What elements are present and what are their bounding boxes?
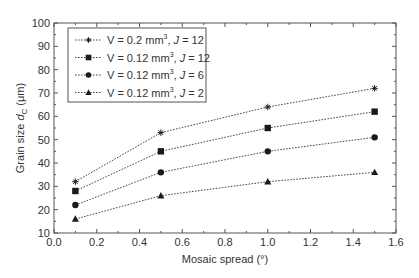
square-marker bbox=[72, 188, 78, 194]
x-tick-label: 0.2 bbox=[89, 236, 104, 248]
y-axis-label: Grain size dC (μm) bbox=[14, 83, 29, 173]
legend-label: V = 0.2 mm3, J = 12 bbox=[107, 33, 204, 46]
circle-marker bbox=[72, 202, 78, 208]
x-tick-label: 0.8 bbox=[217, 236, 232, 248]
x-tick-label: 1.0 bbox=[260, 236, 275, 248]
y-tick-label: 50 bbox=[38, 134, 50, 146]
legend-label: V = 0.12 mm3, J = 2 bbox=[107, 86, 204, 99]
square-marker bbox=[265, 125, 271, 131]
circle-marker bbox=[265, 148, 271, 154]
y-tick-label: 40 bbox=[38, 157, 50, 169]
legend-label: V = 0.12 mm3, J = 12 bbox=[107, 51, 210, 64]
legend: V = 0.2 mm3, J = 12V = 0.12 mm3, J = 12V… bbox=[68, 28, 210, 102]
triangle-marker bbox=[72, 215, 79, 221]
circle-marker bbox=[371, 134, 377, 140]
grain-size-chart: 0.00.20.40.60.81.01.21.41.61020304050607… bbox=[0, 0, 419, 278]
x-tick-label: 1.2 bbox=[303, 236, 318, 248]
y-tick-label: 70 bbox=[38, 87, 50, 99]
y-tick-label: 30 bbox=[38, 180, 50, 192]
x-axis-label: Mosaic spread (°) bbox=[182, 253, 268, 265]
x-tick-label: 0.6 bbox=[175, 236, 190, 248]
y-tick-label: 20 bbox=[38, 204, 50, 216]
y-tick-label: 60 bbox=[38, 110, 50, 122]
series-line bbox=[75, 172, 374, 219]
series-line bbox=[75, 112, 374, 191]
square-marker bbox=[86, 55, 92, 61]
y-axis-label-unit: (μm) bbox=[14, 83, 26, 109]
x-tick-label: 0.4 bbox=[132, 236, 147, 248]
circle-marker bbox=[158, 169, 164, 175]
triangle-marker bbox=[371, 169, 378, 175]
chart-canvas: 0.00.20.40.60.81.01.21.41.61020304050607… bbox=[0, 0, 419, 278]
y-tick-label: 80 bbox=[38, 64, 50, 76]
circle-marker bbox=[86, 72, 92, 78]
series-square bbox=[72, 108, 378, 194]
legend-label: V = 0.12 mm3, J = 6 bbox=[107, 68, 204, 81]
y-axis-label-main: Grain size bbox=[14, 121, 26, 174]
x-tick-label: 1.4 bbox=[346, 236, 361, 248]
square-marker bbox=[158, 148, 164, 154]
y-tick-label: 100 bbox=[32, 17, 50, 29]
square-marker bbox=[371, 108, 377, 114]
series-circle bbox=[72, 134, 378, 208]
series-line bbox=[75, 137, 374, 205]
x-tick-label: 1.6 bbox=[388, 236, 403, 248]
y-tick-label: 10 bbox=[38, 227, 50, 239]
data-series bbox=[72, 85, 378, 222]
series-triangle bbox=[72, 169, 378, 222]
y-tick-label: 90 bbox=[38, 40, 50, 52]
